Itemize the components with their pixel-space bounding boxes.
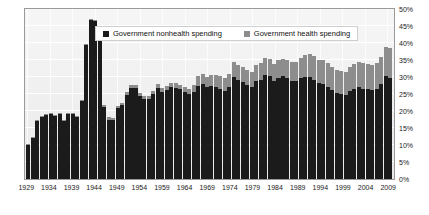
bar-column[interactable] [375, 9, 379, 179]
bar-column[interactable] [40, 9, 44, 179]
bar-column[interactable] [379, 9, 383, 179]
bar-segment-nonhealth [62, 121, 66, 179]
bar-segment-health [259, 63, 263, 80]
bar-segment-health [357, 62, 361, 87]
bar-segment-nonhealth [165, 90, 169, 179]
bar-segment-health [276, 60, 280, 77]
y-axis-tick-label: 25% [399, 91, 413, 98]
x-axis-tick-label: 1949 [109, 184, 125, 192]
legend-label-nonhealth: Government nonhealth spending [113, 30, 222, 38]
bar-segment-nonhealth [187, 94, 191, 179]
bar-segment-nonhealth [49, 114, 53, 179]
bar-column[interactable] [388, 9, 392, 179]
bar-segment-health [361, 63, 365, 88]
y-axis-tick-label: 45% [399, 23, 413, 30]
bar-segment-health [308, 54, 312, 77]
bar-segment-health [352, 64, 356, 88]
y-axis-tick-label: 40% [399, 40, 413, 47]
bar-segment-nonhealth [330, 90, 334, 179]
bar-segment-health [290, 62, 294, 80]
bar-segment-nonhealth [290, 81, 294, 179]
bar-segment-nonhealth [107, 120, 111, 180]
y-axis-tick-label: 35% [399, 57, 413, 64]
bar-column[interactable] [89, 9, 93, 179]
y-axis-tick-label: 15% [399, 125, 413, 132]
x-axis-tick-label: 1964 [177, 184, 193, 192]
bar-column[interactable] [44, 9, 48, 179]
bar-segment-nonhealth [272, 81, 276, 179]
bar-segment-nonhealth [303, 77, 307, 179]
bar-segment-health [236, 65, 240, 80]
bar-segment-nonhealth [223, 91, 227, 179]
bar-segment-nonhealth [294, 81, 298, 179]
bar-column[interactable] [84, 9, 88, 179]
bar-segment-nonhealth [116, 108, 120, 179]
bar-column[interactable] [366, 9, 370, 179]
bar-segment-nonhealth [98, 38, 102, 179]
x-axis-tick-label: 1979 [245, 184, 261, 192]
bar-segment-nonhealth [326, 87, 330, 179]
bar-segment-nonhealth [138, 96, 142, 179]
y-axis-tick-label: 0% [399, 176, 409, 183]
bar-segment-nonhealth [196, 86, 200, 180]
bar-column[interactable] [53, 9, 57, 179]
bar-column[interactable] [26, 9, 30, 179]
bar-segment-nonhealth [339, 94, 343, 179]
bar-segment-nonhealth [89, 20, 93, 179]
bar-segment-health [254, 65, 258, 81]
bar-segment-nonhealth [308, 77, 312, 179]
bar-segment-health [344, 72, 348, 94]
x-axis: 1929193419391944194919541959196419691974… [24, 182, 395, 196]
x-axis-tick-label: 1929 [18, 184, 34, 192]
bar-segment-nonhealth [40, 117, 44, 179]
bar-column[interactable] [35, 9, 39, 179]
bar-column[interactable] [75, 9, 79, 179]
legend-swatch-health-icon [244, 31, 250, 37]
bar-segment-nonhealth [111, 120, 115, 179]
bar-segment-health [335, 70, 339, 93]
bar-segment-nonhealth [142, 99, 146, 179]
bar-segment-health [241, 67, 245, 82]
bar-segment-nonhealth [156, 88, 160, 179]
bar-column[interactable] [71, 9, 75, 179]
x-axis-tick-label: 1934 [41, 184, 57, 192]
bar-segment-health [250, 72, 254, 87]
bar-column[interactable] [58, 9, 62, 179]
x-axis-tick-label: 1959 [154, 184, 170, 192]
bar-segment-nonhealth [232, 77, 236, 179]
bar-segment-nonhealth [335, 93, 339, 179]
bar-segment-health [285, 60, 289, 78]
bar-column[interactable] [66, 9, 70, 179]
bar-segment-health [214, 75, 218, 87]
bar-column[interactable] [49, 9, 53, 179]
bar-segment-health [303, 55, 307, 77]
bar-segment-nonhealth [169, 87, 173, 179]
bar-segment-nonhealth [352, 89, 356, 179]
bar-segment-nonhealth [241, 82, 245, 179]
x-axis-tick-label: 2009 [380, 184, 396, 192]
bar-segment-nonhealth [281, 76, 285, 179]
bar-segment-health [218, 76, 222, 88]
bar-column[interactable] [361, 9, 365, 179]
bar-segment-nonhealth [120, 105, 124, 179]
bar-column[interactable] [384, 9, 388, 179]
x-axis-tick-label: 1999 [335, 184, 351, 192]
bar-segment-health [263, 58, 267, 75]
bar-segment-health [348, 67, 352, 90]
bar-segment-health [232, 62, 236, 77]
bar-segment-nonhealth [227, 87, 231, 179]
bar-segment-nonhealth [245, 85, 249, 179]
bar-segment-nonhealth [160, 92, 164, 179]
bar-column[interactable] [62, 9, 66, 179]
bar-segment-nonhealth [250, 87, 254, 179]
bar-segment-nonhealth [183, 92, 187, 179]
bar-column[interactable] [31, 9, 35, 179]
bar-column[interactable] [80, 9, 84, 179]
bar-segment-health [384, 47, 388, 76]
bar-segment-health [299, 58, 303, 78]
bar-column[interactable] [370, 9, 374, 179]
x-axis-tick-label: 1974 [222, 184, 238, 192]
bar-segment-health [375, 63, 379, 89]
bar-segment-nonhealth [178, 89, 182, 179]
bar-segment-nonhealth [321, 84, 325, 179]
